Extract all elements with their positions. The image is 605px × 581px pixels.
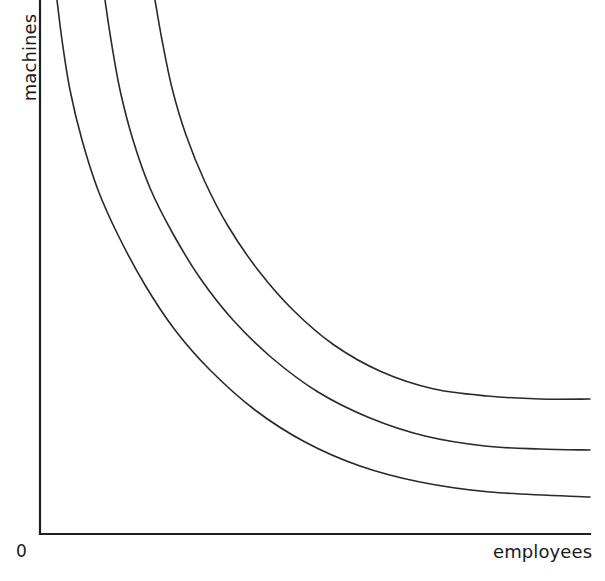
isoquant-curve-3	[155, 0, 590, 399]
x-axis-label: employees	[493, 541, 592, 562]
chart-canvas	[0, 0, 605, 581]
isoquant-curves-group	[57, 0, 590, 497]
isoquant-curve-1	[57, 0, 590, 497]
origin-label: 0	[16, 541, 27, 561]
y-axis-label: machines	[19, 3, 40, 113]
isoquant-figure: machines employees 0	[0, 0, 605, 581]
isoquant-curve-2	[105, 0, 590, 450]
axes-group	[40, 0, 590, 534]
